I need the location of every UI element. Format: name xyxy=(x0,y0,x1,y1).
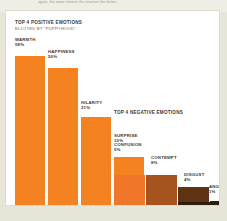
bar-label-anger-name: ANGER xyxy=(209,184,219,189)
bar-label-warmth-name: WARMTH xyxy=(15,37,36,42)
bar-label-confusion-name: CONFUSION xyxy=(114,142,142,147)
chart-plot-area: TOP 4 POSITIVE EMOTIONS ELICITED BY "PUP… xyxy=(6,11,219,205)
negative-group-title: TOP 4 NEGATIVE EMOTIONS xyxy=(114,110,183,115)
bar-label-confusion-value: 5% xyxy=(114,147,142,152)
bar-label-contempt: CONTEMPT 8% xyxy=(151,155,177,166)
bar-label-warmth-value: 58% xyxy=(15,42,36,47)
bar-label-hilarity-value: 21% xyxy=(81,105,102,110)
cut-off-text: again, the more intense the reaction the… xyxy=(38,0,117,4)
bar-label-disgust-value: 4% xyxy=(184,177,205,182)
bar-label-happiness-value: 50% xyxy=(48,54,75,59)
bar-contempt xyxy=(146,175,177,205)
bar-label-hilarity-name: HILARITY xyxy=(81,100,102,105)
bar-hilarity xyxy=(81,117,111,205)
bar-label-warmth: WARMTH 58% xyxy=(15,37,36,48)
bar-label-contempt-value: 8% xyxy=(151,160,177,165)
bar-label-contempt-name: CONTEMPT xyxy=(151,155,177,160)
bar-label-happiness-name: HAPPINESS xyxy=(48,49,75,54)
infographic-chart-page: again, the more intense the reaction the… xyxy=(0,0,227,221)
bar-label-disgust: DISGUST 4% xyxy=(184,172,205,183)
anger-baseline xyxy=(178,202,219,205)
bar-label-anger-value: 1% xyxy=(209,189,219,194)
positive-group-title: TOP 4 POSITIVE EMOTIONS xyxy=(15,20,82,25)
bar-happiness xyxy=(48,68,78,205)
bar-label-anger: ANGER 1% xyxy=(209,184,219,195)
bar-label-hilarity: HILARITY 21% xyxy=(81,100,102,111)
bar-label-disgust-name: DISGUST xyxy=(184,172,205,177)
positive-group-subtitle: ELICITED BY "PUPPYHOOD" xyxy=(15,26,76,31)
bar-label-confusion: CONFUSION 5% xyxy=(114,142,142,153)
bar-confusion xyxy=(114,175,145,205)
bar-warmth xyxy=(15,56,45,205)
bar-label-happiness: HAPPINESS 50% xyxy=(48,49,75,60)
chart-card: TOP 4 POSITIVE EMOTIONS ELICITED BY "PUP… xyxy=(5,10,220,206)
bar-label-surprise-name: SURPRISE xyxy=(114,133,138,138)
